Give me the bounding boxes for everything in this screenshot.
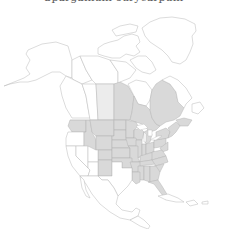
arctic-islands-north	[112, 24, 138, 36]
puerto-rico	[202, 201, 208, 204]
washington	[68, 120, 86, 132]
newfoundland	[192, 102, 204, 114]
hispaniola	[186, 200, 198, 206]
lake-huron	[148, 130, 152, 136]
kansas	[112, 148, 130, 158]
alaska	[4, 42, 72, 86]
indiana	[142, 144, 146, 156]
distribution-map	[0, 0, 227, 229]
north-dakota	[114, 120, 126, 130]
saskatchewan	[96, 84, 114, 120]
cuba	[158, 194, 184, 202]
alabama	[144, 166, 150, 182]
montana	[90, 120, 114, 136]
arctic-islands	[98, 34, 140, 58]
new-mexico	[98, 160, 112, 176]
mexico	[80, 176, 140, 220]
louisiana	[132, 172, 140, 184]
wyoming	[96, 136, 112, 150]
arizona	[88, 162, 98, 176]
oregon	[66, 132, 84, 146]
greenland	[142, 17, 196, 64]
new-england	[168, 122, 180, 138]
south-dakota	[112, 130, 126, 140]
lake-michigan	[144, 132, 146, 142]
colorado	[98, 150, 112, 160]
